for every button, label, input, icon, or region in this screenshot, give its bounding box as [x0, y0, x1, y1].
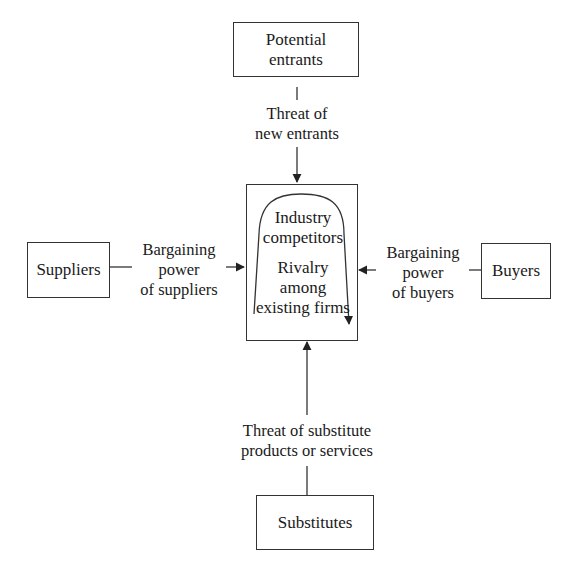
threat-new-entrants-line1: Threat of: [237, 104, 357, 124]
suppliers-label: Suppliers: [36, 260, 100, 280]
potential-entrants-line1: Potential: [266, 30, 326, 50]
threat-substitutes-line2: products or services: [222, 441, 392, 461]
buyers-box: Buyers: [481, 243, 551, 299]
substitutes-box: Substitutes: [256, 495, 374, 550]
industry-heading-line2: competitors: [247, 228, 359, 248]
rivalry-line3: existing firms: [247, 298, 359, 318]
potential-entrants-line2: entrants: [266, 50, 326, 70]
industry-heading-line1: Industry: [247, 208, 359, 228]
buyer-power-line3: of buyers: [378, 283, 468, 303]
substitutes-label: Substitutes: [278, 513, 353, 533]
supplier-power-line1: Bargaining: [132, 240, 226, 260]
buyer-power-line1: Bargaining: [378, 243, 468, 263]
supplier-power-line2: power: [132, 260, 226, 280]
threat-new-entrants-line2: new entrants: [237, 124, 357, 144]
supplier-power-label: Bargaining power of suppliers: [132, 240, 226, 300]
supplier-power-line3: of suppliers: [132, 280, 226, 300]
threat-substitutes-label: Threat of substitute products or service…: [222, 421, 392, 461]
suppliers-box: Suppliers: [27, 242, 110, 298]
threat-substitutes-line1: Threat of substitute: [222, 421, 392, 441]
potential-entrants-box: Potential entrants: [233, 22, 359, 77]
buyer-power-line2: power: [378, 263, 468, 283]
buyers-label: Buyers: [492, 261, 540, 281]
rivalry-line2: among: [247, 278, 359, 298]
industry-competitors-box: Industry competitors Rivalry among exist…: [246, 184, 358, 341]
rivalry-line1: Rivalry: [247, 258, 359, 278]
rivalry-text: Rivalry among existing firms: [247, 258, 359, 318]
buyer-power-label: Bargaining power of buyers: [378, 243, 468, 303]
threat-new-entrants-label: Threat of new entrants: [237, 104, 357, 144]
industry-heading: Industry competitors: [247, 208, 359, 248]
